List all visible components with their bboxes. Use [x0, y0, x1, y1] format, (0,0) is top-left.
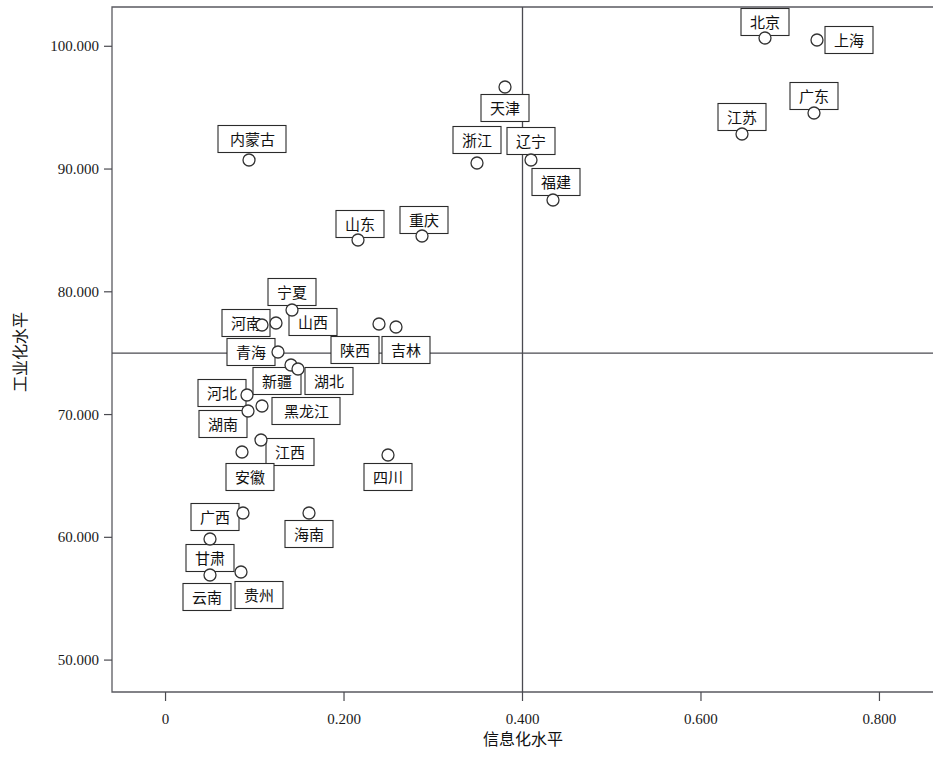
data-point-group: 辽宁: [507, 128, 555, 155]
point-label: 湖南: [208, 416, 238, 434]
data-point-marker: [204, 533, 216, 545]
point-label: 重庆: [409, 212, 439, 230]
y-tick-label: 100.000: [50, 38, 99, 54]
plot-svg: 50.00060.00070.00080.00090.000100.000 00…: [0, 0, 934, 766]
data-point-marker: [811, 34, 823, 46]
data-point-marker: [292, 363, 304, 375]
data-point-marker: [547, 194, 559, 206]
data-point-group: 甘肃: [186, 545, 234, 572]
data-point-group: 天津: [481, 95, 529, 122]
data-point-group: 吉林: [382, 337, 430, 364]
data-point-marker: [382, 449, 394, 461]
x-axis-ticks: 00.2000.4000.6000.800: [162, 692, 897, 727]
data-point-group: 湖南: [199, 411, 247, 438]
data-point-marker: [416, 230, 428, 242]
scatter-plot-figure: 50.00060.00070.00080.00090.000100.000 00…: [0, 0, 934, 766]
data-point-marker: [243, 154, 255, 166]
data-point-marker: [736, 128, 748, 140]
data-point-group: 湖北: [305, 368, 353, 395]
data-point-group: 福建: [532, 169, 580, 196]
point-label: 广西: [200, 509, 230, 527]
x-tick-label: 0.200: [327, 711, 361, 727]
data-point-marker: [303, 507, 315, 519]
point-label: 天津: [490, 100, 520, 118]
point-label: 辽宁: [516, 133, 546, 151]
data-point-group: 宁夏: [268, 279, 316, 306]
data-point-marker: [237, 507, 249, 519]
data-point-marker: [204, 569, 216, 581]
data-point-group: 贵州: [235, 582, 283, 609]
point-label: 海南: [294, 526, 324, 544]
point-label: 宁夏: [277, 284, 307, 302]
data-point-marker: [255, 434, 267, 446]
data-point-group: 安徽: [226, 464, 274, 491]
point-label: 甘肃: [195, 550, 225, 568]
point-label: 江西: [275, 444, 305, 462]
y-tick-label: 80.000: [58, 284, 99, 300]
data-point-marker: [390, 321, 402, 333]
data-point-marker: [241, 389, 253, 401]
data-point-marker: [236, 446, 248, 458]
point-label: 四川: [373, 469, 403, 487]
point-label: 湖北: [314, 373, 344, 391]
data-point-group: 青海: [227, 339, 275, 366]
point-label: 吉林: [391, 342, 421, 360]
data-point-group: 内蒙古: [218, 126, 286, 153]
data-point-marker: [235, 566, 247, 578]
data-point-marker: [525, 154, 537, 166]
data-point-group: 河北: [198, 380, 246, 407]
point-label: 黑龙江: [284, 403, 329, 421]
x-tick-label: 0: [162, 711, 170, 727]
point-label: 安徽: [235, 469, 265, 487]
data-point-marker: [808, 107, 820, 119]
x-tick-label: 0.800: [863, 711, 897, 727]
x-tick-label: 0.600: [684, 711, 718, 727]
data-point-group: 陕西: [331, 337, 379, 364]
point-label: 福建: [541, 174, 571, 192]
y-tick-label: 70.000: [58, 407, 99, 423]
data-point-marker: [256, 400, 268, 412]
x-axis-title: 信息化水平: [483, 730, 563, 749]
y-tick-label: 60.000: [58, 529, 99, 545]
data-point-group: 云南: [183, 584, 231, 611]
data-point-group: 重庆: [400, 207, 448, 234]
data-point-group: 江西: [266, 439, 314, 466]
data-point-group: 山东: [336, 211, 384, 238]
data-points-layer: 北京上海江苏广东天津浙江辽宁福建内蒙古山东重庆宁夏河南山西青海陕西吉林新疆湖北河…: [183, 9, 873, 611]
data-point-group: 黑龙江: [272, 398, 340, 425]
y-tick-label: 50.000: [58, 652, 99, 668]
data-point-marker: [352, 234, 364, 246]
data-point-group: 海南: [285, 521, 333, 548]
y-tick-label: 90.000: [58, 161, 99, 177]
point-label: 江苏: [727, 109, 757, 127]
x-tick-label: 0.400: [506, 711, 540, 727]
data-point-group: 四川: [364, 464, 412, 491]
data-point-marker: [471, 157, 483, 169]
point-label: 河北: [207, 385, 237, 403]
data-point-marker: [242, 405, 254, 417]
y-axis-ticks: 50.00060.00070.00080.00090.000100.000: [50, 38, 112, 668]
point-label: 浙江: [462, 132, 492, 150]
data-point-group: 上海: [825, 27, 873, 54]
y-axis-title: 工业化水平: [11, 312, 30, 392]
data-point-marker: [256, 319, 268, 331]
point-label: 上海: [834, 32, 864, 50]
data-point-marker: [759, 32, 771, 44]
data-point-group: 广西: [191, 504, 239, 531]
point-label: 山西: [298, 314, 328, 332]
point-label: 新疆: [262, 373, 292, 391]
data-point-marker: [270, 317, 282, 329]
data-point-group: 浙江: [453, 127, 501, 154]
data-point-marker: [286, 304, 298, 316]
data-point-group: 江苏: [718, 104, 766, 131]
point-label: 贵州: [244, 587, 274, 605]
point-label: 北京: [750, 14, 780, 32]
data-point-marker: [499, 81, 511, 93]
point-label: 青海: [236, 344, 266, 362]
point-label: 陕西: [340, 342, 370, 360]
data-point-marker: [373, 318, 385, 330]
data-point-group: 广东: [790, 83, 838, 110]
data-point-marker: [272, 346, 284, 358]
point-label: 云南: [192, 589, 222, 607]
point-label: 山东: [345, 216, 375, 234]
